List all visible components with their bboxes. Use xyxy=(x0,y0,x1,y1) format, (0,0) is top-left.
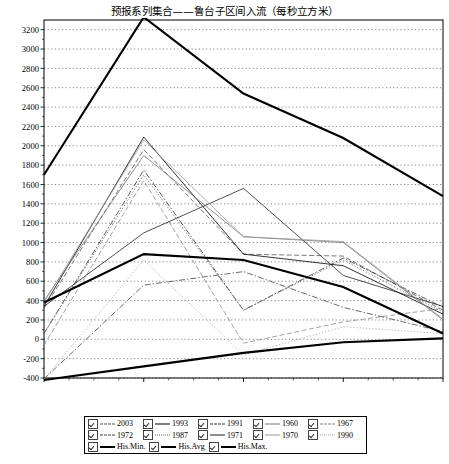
legend-row: 19721987197119701990 xyxy=(88,430,363,442)
y-axis-tick-label: 1800 xyxy=(22,160,39,170)
legend-item-label: 1972 xyxy=(117,431,133,440)
y-axis-tick-label: 2400 xyxy=(22,102,39,112)
legend-item-1971[interactable]: 1971 xyxy=(198,430,249,440)
legend-line-swatch xyxy=(161,443,176,451)
legend-line-swatch xyxy=(100,443,115,451)
legend-item-hisavg[interactable]: His.Avg xyxy=(149,442,204,452)
legend-checkbox-icon[interactable] xyxy=(253,430,263,440)
legend-item-label: His.Min. xyxy=(117,442,145,451)
legend-item-1990[interactable]: 1990 xyxy=(308,430,359,440)
y-axis-tick-label: 1000 xyxy=(22,238,39,248)
series-line-1991 xyxy=(44,170,443,334)
legend-line-swatch xyxy=(155,431,170,439)
legend-line-swatch xyxy=(100,420,115,428)
legend-item-hismax[interactable]: His.Max. xyxy=(209,442,268,452)
legend-checkbox-icon[interactable] xyxy=(149,442,159,452)
y-axis-tick-label: 0 xyxy=(35,334,39,344)
legend-line-swatch xyxy=(320,420,335,428)
legend-item-1993[interactable]: 1993 xyxy=(143,419,194,429)
legend-item-label: 1993 xyxy=(172,419,188,428)
y-axis-labels: 3200300028002600240022002000180016001400… xyxy=(22,25,39,383)
chart-page: 预报系列集合——鲁台子区间入流（每秒立方米） 32003000280026002… xyxy=(0,0,449,464)
y-axis-tick-label: 600 xyxy=(26,276,39,286)
legend-checkbox-icon[interactable] xyxy=(198,430,208,440)
legend-item-1991[interactable]: 1991 xyxy=(198,419,249,429)
legend-item-hismin[interactable]: His.Min. xyxy=(88,442,145,452)
legend-item-label: 2003 xyxy=(117,419,133,428)
legend-item-label: 1987 xyxy=(172,431,188,440)
y-axis-tick-label: 2800 xyxy=(22,64,39,74)
legend-item-label: 1991 xyxy=(227,419,243,428)
legend-row: His.Min.His.AvgHis.Max. xyxy=(88,441,363,453)
legend-line-swatch xyxy=(210,420,225,428)
y-axis-tick-label: -400 xyxy=(23,373,39,383)
legend-item-label: 1960 xyxy=(282,419,298,428)
legend-item-label: 1971 xyxy=(227,431,243,440)
series-line-1970 xyxy=(44,140,443,319)
legend-item-1960[interactable]: 1960 xyxy=(253,419,304,429)
legend-line-swatch xyxy=(265,420,280,428)
y-axis-tick-label: 200 xyxy=(26,315,39,325)
y-axis-tick-label: 1200 xyxy=(22,218,39,228)
legend-line-swatch xyxy=(221,443,236,451)
y-axis-tick-label: 1600 xyxy=(22,180,39,190)
legend-line-swatch xyxy=(265,431,280,439)
legend-item-1967[interactable]: 1967 xyxy=(308,419,359,429)
legend-item-label: 1970 xyxy=(282,431,298,440)
series-line-2003 xyxy=(44,150,443,311)
legend-item-1987[interactable]: 1987 xyxy=(143,430,194,440)
legend-checkbox-icon[interactable] xyxy=(308,430,318,440)
series-line-hismin xyxy=(44,338,443,380)
legend-checkbox-icon[interactable] xyxy=(88,419,98,429)
legend-checkbox-icon[interactable] xyxy=(143,419,153,429)
series-lines xyxy=(44,18,443,380)
legend-line-swatch xyxy=(100,431,115,439)
plot-area: 3200300028002600240022002000180016001400… xyxy=(0,18,449,383)
legend-item-label: 1967 xyxy=(337,419,353,428)
y-axis-tick-label: 400 xyxy=(26,296,39,306)
y-tick-marks xyxy=(41,30,45,378)
legend-line-swatch xyxy=(320,431,335,439)
page-title: 预报系列集合——鲁台子区间入流（每秒立方米） xyxy=(0,3,449,18)
series-line-hisavg xyxy=(44,254,443,333)
legend: 20031993199119601967 1972198719711970199… xyxy=(84,416,367,454)
x-tick-marks xyxy=(44,378,443,382)
legend-item-label: His.Max. xyxy=(238,442,268,451)
y-axis-tick-label: 2000 xyxy=(22,141,39,151)
y-axis-tick-label: 3000 xyxy=(22,44,39,54)
legend-checkbox-icon[interactable] xyxy=(88,442,98,452)
line-chart-svg: 3200300028002600240022002000180016001400… xyxy=(0,18,449,383)
legend-item-label: His.Avg xyxy=(178,442,204,451)
legend-checkbox-icon[interactable] xyxy=(209,442,219,452)
y-axis-tick-label: 3200 xyxy=(22,25,39,35)
y-axis-tick-label: 2200 xyxy=(22,122,39,132)
legend-checkbox-icon[interactable] xyxy=(198,419,208,429)
legend-item-1972[interactable]: 1972 xyxy=(88,430,139,440)
legend-row: 20031993199119601967 xyxy=(88,418,363,430)
y-axis-tick-label: 800 xyxy=(26,257,39,267)
legend-item-1970[interactable]: 1970 xyxy=(253,430,304,440)
legend-checkbox-icon[interactable] xyxy=(253,419,263,429)
y-axis-tick-label: 1400 xyxy=(22,199,39,209)
legend-checkbox-icon[interactable] xyxy=(88,430,98,440)
plot-frame xyxy=(44,20,443,378)
legend-checkbox-icon[interactable] xyxy=(308,419,318,429)
y-axis-tick-label: 2600 xyxy=(22,83,39,93)
series-line-1971 xyxy=(44,188,443,306)
legend-line-swatch xyxy=(155,420,170,428)
legend-line-swatch xyxy=(210,431,225,439)
legend-item-label: 1990 xyxy=(337,431,353,440)
y-axis-tick-label: -200 xyxy=(23,354,39,364)
legend-checkbox-icon[interactable] xyxy=(143,430,153,440)
legend-item-2003[interactable]: 2003 xyxy=(88,419,139,429)
